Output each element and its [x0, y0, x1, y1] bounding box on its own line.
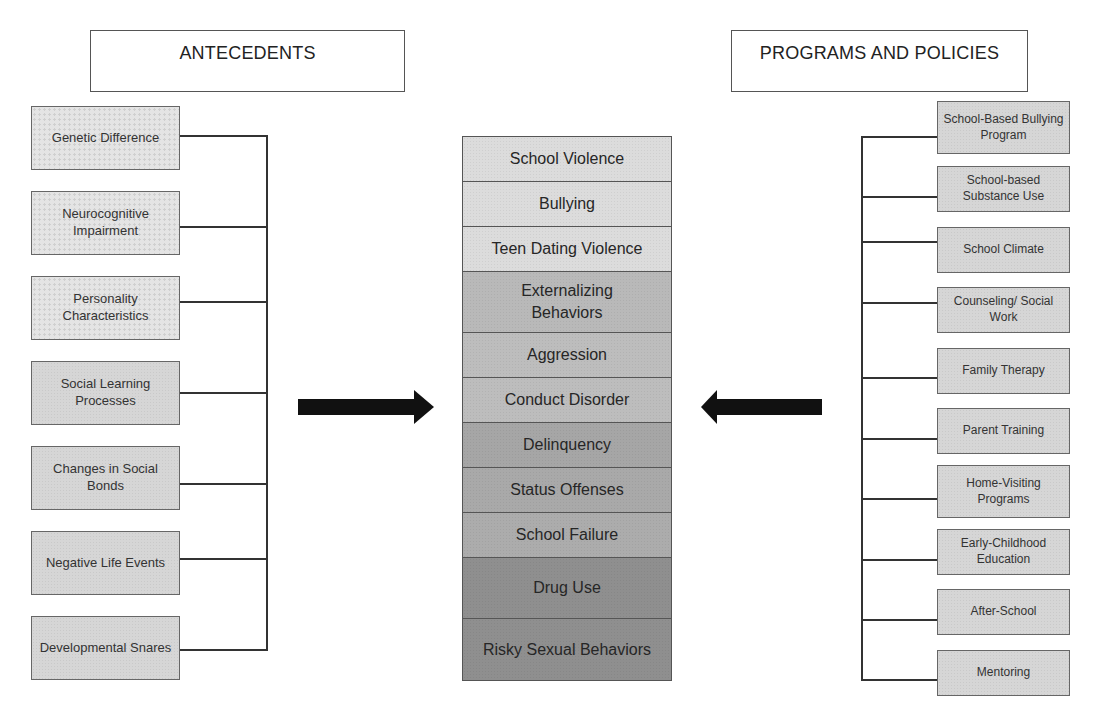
outcome-cell: Teen Dating Violence: [463, 227, 671, 272]
antecedent-box: Developmental Snares: [31, 616, 180, 680]
program-box: School-based Substance Use: [937, 166, 1070, 212]
programs-title: PROGRAMS AND POLICIES: [760, 43, 999, 91]
connector-branch: [180, 649, 268, 651]
connector-vertical: [861, 136, 863, 681]
connector-branch: [180, 392, 268, 394]
connector-branch: [861, 241, 938, 243]
connector-branch: [180, 483, 268, 485]
program-box: After-School: [937, 589, 1070, 635]
program-box: School Climate: [937, 227, 1070, 273]
outcome-cell: Externalizing Behaviors: [463, 272, 671, 333]
program-box: Parent Training: [937, 408, 1070, 454]
left-arrow-icon: [701, 390, 822, 424]
outcome-cell: School Violence: [463, 137, 671, 182]
connector-branch: [861, 136, 938, 138]
connector-branch: [180, 135, 268, 137]
connector-branch: [861, 438, 938, 440]
connector-branch: [861, 377, 938, 379]
antecedent-box: Personality Characteristics: [31, 276, 180, 340]
connector-branch: [180, 226, 268, 228]
antecedent-box: Negative Life Events: [31, 531, 180, 595]
outcome-cell: Conduct Disorder: [463, 378, 671, 423]
outcome-cell: Drug Use: [463, 558, 671, 619]
connector-branch: [863, 679, 938, 681]
outcome-cell: Delinquency: [463, 423, 671, 468]
program-box: School-Based Bullying Program: [937, 101, 1070, 154]
antecedents-title: ANTECEDENTS: [179, 43, 315, 91]
outcome-cell: Bullying: [463, 182, 671, 227]
antecedent-box: Changes in Social Bonds: [31, 446, 180, 510]
outcomes-stack: School Violence Bullying Teen Dating Vio…: [462, 136, 672, 681]
antecedent-box: Genetic Difference: [31, 106, 180, 170]
antecedents-header: ANTECEDENTS: [90, 30, 405, 92]
program-box: Early-Childhood Education: [937, 529, 1070, 575]
outcome-cell: Status Offenses: [463, 468, 671, 513]
outcome-cell: Aggression: [463, 333, 671, 378]
program-box: Mentoring: [937, 650, 1070, 696]
connector-branch: [861, 302, 938, 304]
programs-header: PROGRAMS AND POLICIES: [731, 30, 1028, 92]
outcome-cell: School Failure: [463, 513, 671, 558]
connector-branch: [861, 559, 938, 561]
connector-branch: [180, 301, 268, 303]
connector-branch: [861, 498, 938, 500]
program-box: Home-Visiting Programs: [937, 465, 1070, 518]
connector-branch: [861, 196, 938, 198]
program-box: Counseling/ Social Work: [937, 287, 1070, 333]
program-box: Family Therapy: [937, 348, 1070, 394]
outcome-cell: Risky Sexual Behaviors: [463, 619, 671, 680]
right-arrow-icon: [298, 390, 434, 424]
antecedent-box: Neurocognitive Impairment: [31, 191, 180, 255]
antecedent-box: Social Learning Processes: [31, 361, 180, 425]
connector-branch: [180, 558, 268, 560]
connector-branch: [861, 619, 938, 621]
